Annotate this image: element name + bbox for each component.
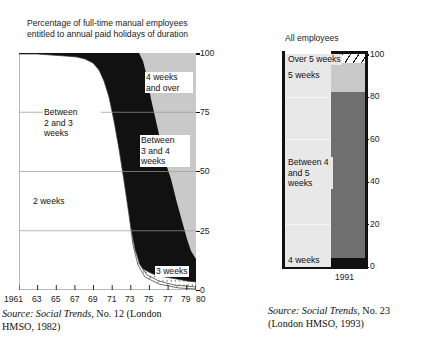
right-ytickmark-20 [365, 224, 369, 225]
right-chart-right-axis [365, 51, 368, 269]
left-xtick-77: 77 [163, 294, 173, 304]
right-ytick-20: 20 [370, 219, 400, 229]
left-ytick-75: 75 [200, 107, 220, 117]
right-chart-left-axis [282, 51, 285, 267]
callout-3-weeks: 3 weeks [155, 266, 189, 277]
right-ytickmark-100 [365, 54, 369, 56]
right-source-rest: , No. 23 [357, 305, 390, 316]
right-ytick-60: 60 [370, 134, 400, 144]
right-source-note: Source: Social Trends, No. 23 (London HM… [268, 304, 427, 330]
callout-4-weeks-and-over: 4 weeks and over [145, 72, 193, 93]
bar-segment-4-weeks[interactable] [331, 258, 365, 267]
bar-1991[interactable] [331, 54, 365, 267]
left-source-rest: , No. 12 (London [91, 308, 161, 319]
callout-between-3-and-4-weeks: Between 3 and 4 weeks [140, 135, 190, 167]
left-xtick-73: 73 [125, 294, 135, 304]
label-over-5-weeks: Over 5 weeks [287, 54, 342, 65]
label-between-4-and-5-weeks: Between 4 and 5 weeks [287, 157, 333, 189]
left-ytick-100: 100 [200, 48, 220, 58]
left-xtick-80: 80 [196, 294, 206, 304]
left-xtick-69: 69 [88, 294, 98, 304]
left-ytick-50: 50 [200, 166, 220, 176]
label-5-weeks: 5 weeks [287, 70, 321, 81]
left-ytick-25: 25 [200, 226, 220, 236]
left-chart-title: Percentage of full-time manual employees… [27, 18, 227, 40]
callout-between-2-and-3-weeks: Between 2 and 3 weeks [43, 107, 101, 139]
left-ytickmark-0 [196, 290, 200, 291]
left-xtick-63: 63 [32, 294, 42, 304]
left-xtick-79: 79 [181, 294, 191, 304]
left-xtick-75: 75 [144, 294, 154, 304]
right-chart-bottom-axis [282, 267, 368, 269]
right-xcat-1991: 1991 [335, 272, 354, 282]
right-ytick-80: 80 [370, 91, 400, 101]
right-ytick-0: 0 [370, 261, 400, 271]
right-source-italic: Source: Social Trends [268, 305, 357, 316]
left-xtick-1961: 1961 [4, 294, 23, 304]
left-xtick-65: 65 [51, 294, 61, 304]
left-ytickmark-25 [196, 231, 200, 232]
bar-segment-between-4-and-5-weeks[interactable] [331, 92, 365, 258]
right-bar-chart: Over 5 weeks 5 weeks Between 4 and 5 wee… [285, 54, 365, 267]
right-ytickmark-60 [365, 139, 369, 140]
left-ytickmark-100 [196, 53, 200, 55]
left-xtick-71: 71 [107, 294, 117, 304]
left-xtick-row: 1961 63 65 67 69 71 73 75 77 79 80 [0, 294, 215, 306]
figure-page: Percentage of full-time manual employees… [0, 0, 427, 351]
right-ytickmark-0 [365, 267, 369, 268]
right-source-line2: (London HMSO, 1993) [268, 318, 364, 329]
left-source-italic: Source: Social Trends [2, 308, 91, 319]
callout-2-weeks: 2 weeks [32, 196, 66, 207]
right-ytickmark-80 [365, 97, 369, 98]
left-source-line2: HMSO, 1982) [2, 321, 60, 332]
right-chart-title: All employees [285, 33, 405, 44]
bar-segment-5-weeks[interactable] [331, 63, 365, 93]
right-ytickmark-40 [365, 182, 369, 183]
left-xtick-67: 67 [70, 294, 80, 304]
right-ytick-40: 40 [370, 176, 400, 186]
left-ytickmark-50 [196, 171, 200, 172]
left-source-note: Source: Social Trends, No. 12 (London HM… [2, 307, 217, 333]
left-ytickmark-75 [196, 112, 200, 113]
label-4-weeks: 4 weeks [287, 255, 321, 266]
right-ytick-100: 100 [370, 49, 400, 59]
